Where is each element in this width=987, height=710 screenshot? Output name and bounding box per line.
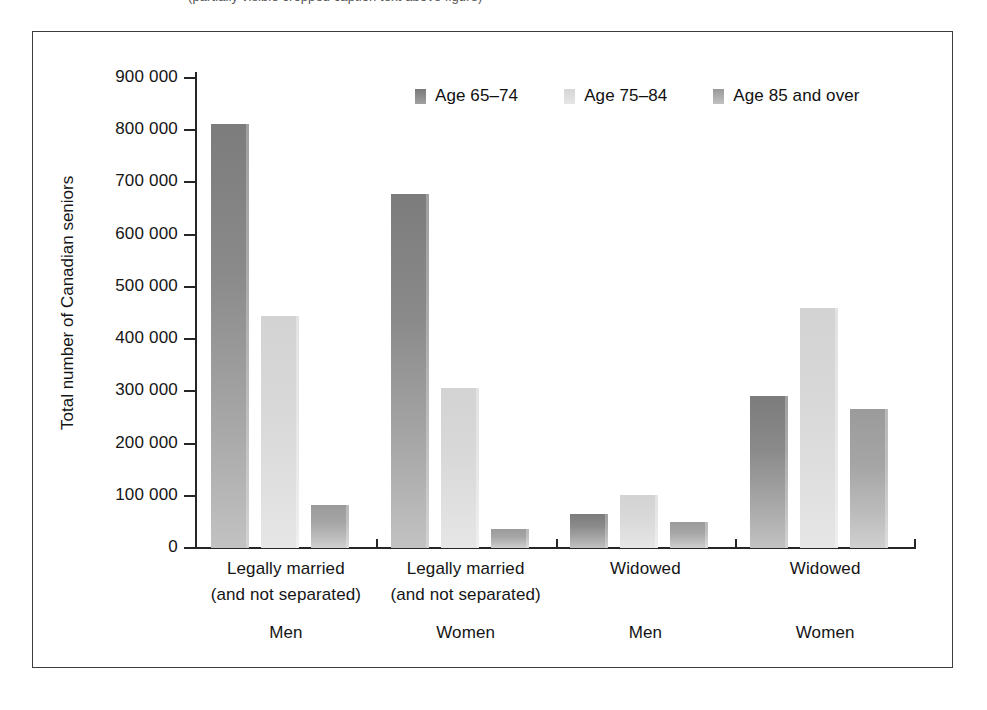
- legend-item-3[interactable]: Age 85 and over: [713, 86, 859, 106]
- x-label-spacer: [735, 582, 915, 608]
- chart-legend: Age 65–74Age 75–84Age 85 and over: [415, 86, 860, 106]
- x-label-sex: Men: [556, 620, 736, 646]
- cropped-caption-strip: (partially visible cropped caption text …: [0, 0, 987, 16]
- legend-swatch-icon: [415, 89, 426, 104]
- x-label-line-1: Legally married: [376, 556, 556, 582]
- x-label-line-1: Widowed: [735, 556, 915, 582]
- x-axis-group-label-3: Widowed Men: [556, 556, 736, 646]
- x-label-sex: Men: [196, 620, 376, 646]
- legend-swatch-icon: [713, 89, 724, 104]
- x-label-sex: Women: [376, 620, 556, 646]
- legend-item-2[interactable]: Age 75–84: [564, 86, 667, 106]
- x-label-line-1: Widowed: [556, 556, 736, 582]
- x-label-spacer: [556, 582, 736, 608]
- x-label-line-1: Legally married: [196, 556, 376, 582]
- legend-item-1[interactable]: Age 65–74: [415, 86, 518, 106]
- x-axis-group-label-4: Widowed Women: [735, 556, 915, 646]
- x-axis-group-label-2: Legally married(and not separated)Women: [376, 556, 556, 646]
- cropped-caption-text: (partially visible cropped caption text …: [188, 0, 482, 4]
- legend-label: Age 85 and over: [733, 86, 859, 106]
- x-axis-category-labels: Legally married(and not separated)MenLeg…: [0, 556, 987, 666]
- x-label-line-2: (and not separated): [196, 582, 376, 608]
- x-label-sex: Women: [735, 620, 915, 646]
- x-label-line-2: (and not separated): [376, 582, 556, 608]
- legend-swatch-icon: [564, 89, 575, 104]
- legend-label: Age 65–74: [435, 86, 518, 106]
- legend-label: Age 75–84: [584, 86, 667, 106]
- x-axis-group-label-1: Legally married(and not separated)Men: [196, 556, 376, 646]
